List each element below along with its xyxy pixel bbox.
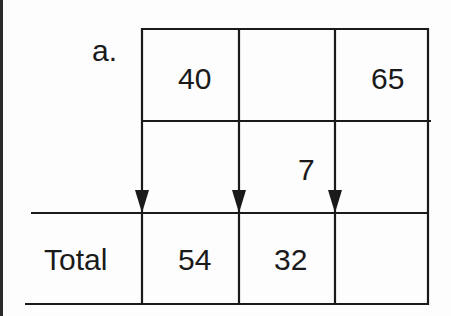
arrow-down-icon — [232, 190, 246, 213]
cell-r2c2: 7 — [298, 155, 315, 185]
total-cell-c2: 32 — [274, 245, 307, 275]
part-label: a. — [92, 36, 117, 66]
cell-r1c3: 65 — [371, 64, 404, 94]
cell-r1c1: 40 — [178, 64, 211, 94]
arrow-down-icon — [135, 190, 149, 213]
total-cell-c1: 54 — [178, 245, 211, 275]
total-row-label: Total — [44, 245, 107, 275]
arrow-down-icon — [328, 190, 342, 213]
